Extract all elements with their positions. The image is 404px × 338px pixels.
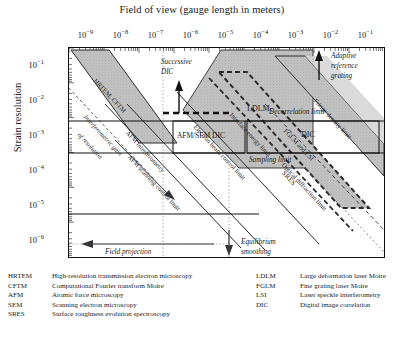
arrowhead-equilibrium-smoothing [225, 245, 233, 256]
legend-row: LDLMLarge deformation laser Moire [256, 272, 404, 282]
legend-row: CFTMComputational Fourier transform Moir… [8, 282, 258, 292]
legend-description: Fine grating laser Moire [300, 282, 368, 292]
legend-description: Computational Fourier transform Moire [52, 282, 164, 292]
y-tick-label: 10−2 [0, 93, 44, 105]
legend-column-left: HRTEMHigh-resolution transmission electr… [8, 272, 258, 320]
legend-abbreviation: HRTEM [8, 272, 52, 282]
legend-row: HRTEMHigh-resolution transmission electr… [8, 272, 258, 282]
x-tick-label: 10−3 [279, 28, 313, 40]
legend-abbreviation: SEM [8, 301, 52, 311]
y-tick-label: 10−3 [0, 128, 44, 140]
label-decorrelation-limit: Decorrelation limit [269, 108, 324, 116]
legend-column-right: LDLMLarge deformation laser MoireFGLMFin… [256, 272, 404, 310]
x-tick-label: 10−7 [139, 28, 173, 40]
y-tick-label: 10−4 [0, 163, 44, 175]
label-adaptive-grating-line2: reference [331, 62, 358, 70]
legend-description: Atomic force microscopy [52, 291, 124, 301]
legend-row: SRESSurface roughness evolution spectros… [8, 310, 258, 320]
x-tick-label: 10−2 [314, 28, 348, 40]
chart-title: Field of view (gauge length in meters) [0, 4, 404, 15]
label-adaptive-grating-line3: grating [331, 72, 352, 80]
x-tick-label: 10−8 [104, 28, 138, 40]
y-tick-label: 10−1 [0, 58, 44, 70]
legend-row: SEMScanning electron microscopy [8, 301, 258, 311]
x-tick-label: 10−4 [244, 28, 278, 40]
label-successive-dic-line2: DIC [161, 68, 173, 76]
arrowhead-successive-dic [175, 80, 183, 91]
legend-description: Laser speckle interferometry [300, 291, 380, 301]
label-equilibrium-smoothing-line1: Equilibrium [241, 238, 276, 246]
x-tick-label: 10−9 [69, 28, 103, 40]
y-tick-label: 10−6 [0, 233, 44, 245]
legend-abbreviation: DIC [256, 301, 300, 311]
label-successive-dic-line1: Successive [161, 58, 192, 66]
label-ldlm: LDLM [247, 104, 270, 113]
plot-area: HRTEM, CFTM SRES FGLM and LSI AFM interf… [68, 47, 385, 258]
legend-description: Scanning electron microscopy [52, 301, 137, 311]
arrowhead-adaptive-reference-grating [315, 50, 323, 61]
x-tick-label: 10−6 [174, 28, 208, 40]
legend-abbreviation: AFM [8, 291, 52, 301]
legend-row: FGLMFine grating laser Moire [256, 282, 404, 292]
legend-description: Digital image correlation [300, 301, 370, 311]
legend-description: Surface roughness evolution spectroscopy [52, 310, 170, 320]
label-field-projection-line1: Field projection [105, 248, 151, 256]
label-sampling-limit: Sampling limit [249, 156, 291, 164]
legend-abbreviation: FGLM [256, 282, 300, 292]
left-axis-minor-ticks [69, 48, 74, 255]
x-tick-label: 10−5 [209, 28, 243, 40]
legend-row: LSILaser speckle interferometry [256, 291, 404, 301]
strain-resolution-field-of-view-figure: Field of view (gauge length in meters) S… [0, 0, 404, 338]
label-adaptive-grating-line1: Adaptive [331, 52, 357, 60]
legend-description: High-resolution transmission electron mi… [52, 272, 192, 282]
legend-row: DICDigital image correlation [256, 301, 404, 311]
legend-abbreviation: LDLM [256, 272, 300, 282]
legend-abbreviation: CFTM [8, 282, 52, 292]
label-dic: DIC [301, 130, 315, 139]
legend-abbreviation: LSI [256, 291, 300, 301]
legend-description: Large deformation laser Moire [300, 272, 386, 282]
y-tick-label: 10−5 [0, 198, 44, 210]
legend-row: AFMAtomic force microscopy [8, 291, 258, 301]
x-tick-label: 10−1 [349, 28, 383, 40]
label-equilibrium-smoothing-line2: smoothing [241, 248, 271, 256]
legend-abbreviation: SRES [8, 310, 52, 320]
label-afm-sem-dic: AFM/SEM DIC [177, 131, 225, 140]
